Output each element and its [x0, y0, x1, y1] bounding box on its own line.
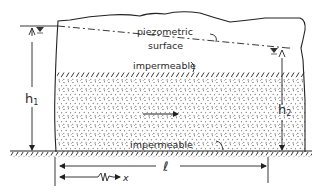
impermeable-top-label: impermeable [133, 60, 196, 71]
x-label: x [122, 172, 129, 183]
length-dimension: ℓ [55, 157, 268, 186]
x-coordinate: x [60, 172, 129, 183]
piezometric-label: piezometric [137, 26, 193, 37]
water-level-marker-left [36, 27, 44, 33]
surface-label: surface [148, 40, 183, 51]
water-level-marker-right [270, 48, 278, 54]
length-label: ℓ [162, 159, 168, 174]
h1-dimension: h1 [25, 28, 38, 150]
h1-label: h1 [25, 91, 38, 107]
impermeable-bottom-label: impermeable [130, 139, 193, 150]
upper-impermeable-boundary [57, 72, 305, 77]
aquifer-diagram: piezometric surface impermeable impermea… [0, 0, 329, 195]
